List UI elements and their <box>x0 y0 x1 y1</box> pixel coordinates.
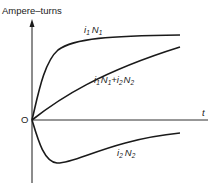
ampere-turns-diagram: Ampere–turns t O i1N1 i1N1+i2N2 i2N2 <box>0 0 218 185</box>
x-axis-label: t <box>202 107 205 118</box>
y-axis-label: Ampere–turns <box>2 5 62 16</box>
label-i1n1-plus-i2n2: i1N1+i2N2 <box>94 74 134 86</box>
y-axis <box>30 19 35 183</box>
curve-i2n2 <box>32 120 180 163</box>
y-axis-arrow-icon <box>30 19 35 27</box>
label-i2n2: i2N2 <box>117 147 136 159</box>
origin-label: O <box>21 114 28 125</box>
label-i1n1: i1N1 <box>84 24 103 36</box>
